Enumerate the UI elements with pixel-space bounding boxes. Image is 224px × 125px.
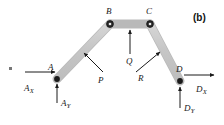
scan-artifact-speck bbox=[9, 67, 12, 70]
reaction-symbol-Dy: D bbox=[184, 103, 191, 113]
joint-label-B: B bbox=[106, 7, 112, 16]
joint-pin-D bbox=[177, 78, 183, 84]
joint-label-C: C bbox=[146, 7, 152, 16]
load-arrow-P bbox=[84, 53, 103, 72]
joint-label-A: A bbox=[48, 63, 54, 72]
load-arrow-R bbox=[136, 52, 160, 72]
reaction-subscript-Dy: Y bbox=[191, 107, 195, 114]
joint-label-D: D bbox=[176, 65, 183, 74]
reaction-symbol-Dx: D bbox=[196, 84, 203, 94]
load-label-P: P bbox=[98, 76, 104, 85]
free-body-diagram-figure: A B C D P Q R AX AY DX DY (b) bbox=[0, 0, 224, 125]
load-label-Q: Q bbox=[126, 57, 133, 66]
reaction-symbol-Ay: A bbox=[61, 98, 67, 108]
joint-pin-A bbox=[54, 76, 60, 82]
joint-pin-C bbox=[147, 21, 154, 28]
reaction-label-Dy: DY bbox=[184, 104, 194, 113]
reaction-label-Dx: DX bbox=[196, 85, 206, 94]
reaction-label-Ax: AX bbox=[24, 84, 33, 93]
load-label-R: R bbox=[138, 74, 144, 83]
joint-pin-B bbox=[107, 21, 114, 28]
reaction-subscript-Ax: X bbox=[30, 87, 34, 94]
reaction-subscript-Dx: X bbox=[203, 88, 207, 95]
reaction-subscript-Ay: Y bbox=[67, 102, 71, 109]
reaction-symbol-Ax: A bbox=[24, 83, 30, 93]
reaction-label-Ay: AY bbox=[61, 99, 70, 108]
panel-tag: (b) bbox=[193, 13, 206, 23]
